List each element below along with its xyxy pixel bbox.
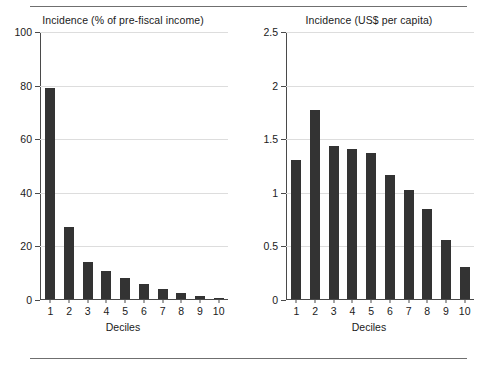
bar-slot: 3 — [78, 32, 97, 299]
x-tick-mark — [106, 299, 107, 303]
bar-slot: 6 — [381, 32, 400, 299]
chart-title-left: Incidence (% of pre-fiscal income) — [0, 14, 246, 26]
bar-group-left: 12345678910 — [41, 32, 228, 299]
y-tick-mark — [35, 86, 40, 87]
plot-inner-left: 02040608010012345678910 — [40, 32, 228, 300]
plot-inner-right: 00.511.522.512345678910 — [286, 32, 474, 300]
bar[interactable] — [64, 227, 74, 299]
x-tick-label: 9 — [443, 305, 449, 317]
bar[interactable] — [329, 146, 339, 299]
x-tick-mark — [218, 299, 219, 303]
y-tick-label: 0.5 — [263, 240, 278, 252]
y-tick-mark — [35, 32, 40, 33]
x-tick-label: 8 — [424, 305, 430, 317]
bar-slot: 9 — [437, 32, 456, 299]
bar-slot: 7 — [153, 32, 172, 299]
bar[interactable] — [460, 267, 470, 299]
x-tick-label: 10 — [459, 305, 471, 317]
y-tick-label: 1.5 — [263, 133, 278, 145]
bar[interactable] — [347, 149, 357, 299]
bar-slot: 10 — [455, 32, 474, 299]
x-tick-mark — [50, 299, 51, 303]
bar[interactable] — [385, 175, 395, 299]
x-tick-label: 1 — [293, 305, 299, 317]
bar-slot: 8 — [418, 32, 437, 299]
plot-area-left: 02040608010012345678910 — [40, 32, 228, 300]
x-tick-mark — [125, 299, 126, 303]
bar[interactable] — [291, 160, 301, 299]
x-tick-mark — [371, 299, 372, 303]
bar-slot: 4 — [97, 32, 116, 299]
y-tick-mark — [281, 86, 286, 87]
bar-slot: 8 — [172, 32, 191, 299]
bar-slot: 2 — [306, 32, 325, 299]
x-tick-mark — [143, 299, 144, 303]
top-rule — [30, 6, 467, 7]
x-tick-mark — [427, 299, 428, 303]
y-tick-mark — [35, 139, 40, 140]
x-tick-label: 5 — [368, 305, 374, 317]
x-axis-title-right: Deciles — [246, 321, 492, 333]
x-axis-title-left: Deciles — [0, 321, 246, 333]
bar[interactable] — [422, 209, 432, 299]
bar[interactable] — [441, 240, 451, 299]
bar-slot: 1 — [41, 32, 60, 299]
bar[interactable] — [158, 289, 168, 299]
bar-slot: 6 — [135, 32, 154, 299]
bar-slot: 1 — [287, 32, 306, 299]
y-tick-label: 0 — [272, 294, 278, 306]
y-tick-mark — [281, 193, 286, 194]
bar-slot: 5 — [116, 32, 135, 299]
x-tick-mark — [87, 299, 88, 303]
x-tick-label: 7 — [160, 305, 166, 317]
bar[interactable] — [120, 278, 130, 299]
y-tick-label: 80 — [20, 80, 32, 92]
bar-slot: 3 — [324, 32, 343, 299]
x-tick-mark — [315, 299, 316, 303]
x-tick-mark — [464, 299, 465, 303]
y-tick-mark — [35, 300, 40, 301]
x-tick-mark — [333, 299, 334, 303]
y-tick-label: 40 — [20, 187, 32, 199]
x-tick-label: 4 — [104, 305, 110, 317]
bar-slot: 10 — [209, 32, 228, 299]
bar-slot: 4 — [343, 32, 362, 299]
figure-container: Incidence (% of pre-fiscal income) 02040… — [0, 0, 492, 367]
x-tick-label: 2 — [312, 305, 318, 317]
bar-group-right: 12345678910 — [287, 32, 474, 299]
chart-panel-left: Incidence (% of pre-fiscal income) 02040… — [0, 10, 246, 350]
x-tick-mark — [162, 299, 163, 303]
bar-slot: 5 — [362, 32, 381, 299]
x-tick-label: 9 — [197, 305, 203, 317]
y-tick-mark — [35, 246, 40, 247]
chart-panel-right: Incidence (US$ per capita) 00.511.522.51… — [246, 10, 492, 350]
bar[interactable] — [45, 88, 55, 299]
x-tick-label: 10 — [213, 305, 225, 317]
x-tick-mark — [181, 299, 182, 303]
x-tick-label: 2 — [66, 305, 72, 317]
y-tick-label: 60 — [20, 133, 32, 145]
bar[interactable] — [366, 153, 376, 299]
panels-row: Incidence (% of pre-fiscal income) 02040… — [0, 10, 492, 350]
chart-title-right: Incidence (US$ per capita) — [246, 14, 492, 26]
x-tick-label: 6 — [387, 305, 393, 317]
bar[interactable] — [83, 262, 93, 299]
y-tick-label: 0 — [26, 294, 32, 306]
x-tick-mark — [199, 299, 200, 303]
x-tick-mark — [408, 299, 409, 303]
bottom-rule — [30, 358, 467, 359]
x-tick-mark — [352, 299, 353, 303]
bar[interactable] — [310, 110, 320, 299]
x-tick-label: 8 — [178, 305, 184, 317]
x-tick-mark — [389, 299, 390, 303]
y-tick-mark — [281, 246, 286, 247]
bar[interactable] — [139, 284, 149, 299]
y-tick-mark — [281, 139, 286, 140]
y-tick-label: 1 — [272, 187, 278, 199]
bar[interactable] — [404, 190, 414, 299]
x-tick-label: 5 — [122, 305, 128, 317]
y-tick-label: 2.5 — [263, 26, 278, 38]
y-tick-label: 20 — [20, 240, 32, 252]
bar[interactable] — [101, 271, 111, 299]
x-tick-label: 7 — [406, 305, 412, 317]
